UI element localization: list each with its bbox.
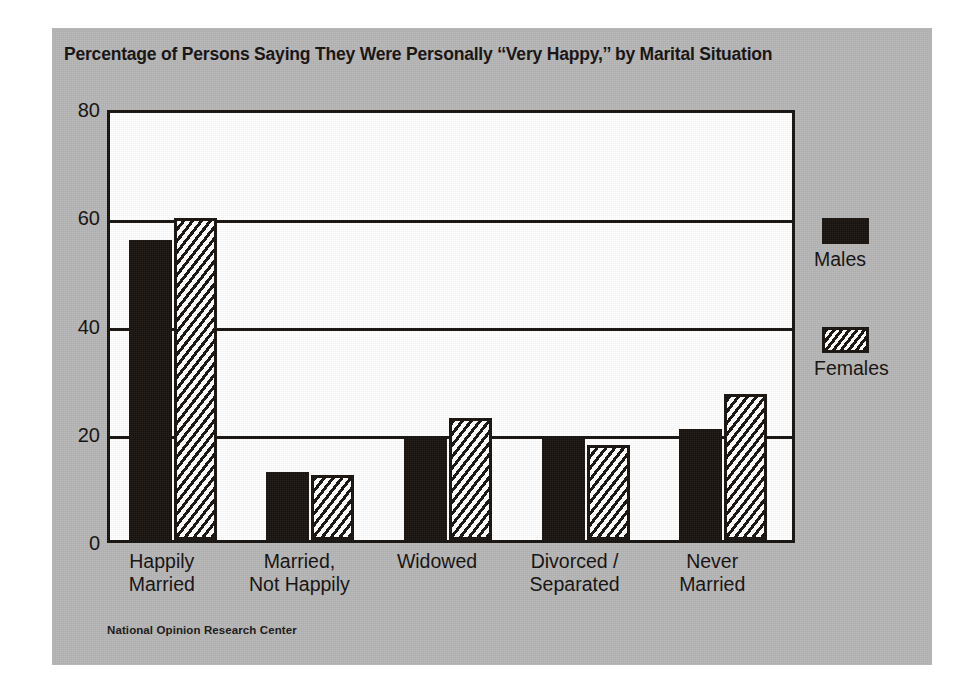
legend-label-males: Males — [814, 248, 924, 271]
bar-males-3 — [542, 437, 585, 540]
hatched-swatch — [822, 327, 869, 353]
source-note: National Opinion Research Center — [107, 624, 297, 636]
bar-females-0 — [174, 218, 217, 540]
y-tick-label-40: 40 — [54, 315, 100, 338]
bar-females-2 — [449, 418, 492, 540]
x-label-line: Divorced / — [506, 550, 644, 573]
bar-females-4 — [724, 394, 767, 540]
x-label-3: Divorced /Separated — [506, 550, 644, 596]
chart-legend: MalesFemales — [814, 218, 924, 436]
y-tick-label-20: 20 — [54, 423, 100, 446]
x-label-0: HappilyMarried — [93, 550, 231, 596]
x-label-line: Married — [643, 573, 781, 596]
bar-males-1 — [266, 472, 309, 540]
x-label-line: Happily — [93, 550, 231, 573]
chart-panel: Percentage of Persons Saying They Were P… — [52, 28, 932, 665]
bar-females-3 — [587, 445, 630, 540]
y-tick-label-80: 80 — [54, 99, 100, 122]
bar-males-0 — [129, 240, 172, 540]
solid-black-swatch — [822, 218, 869, 244]
bar-males-2 — [404, 437, 447, 540]
y-axis-tick-labels: 020406080 — [52, 110, 100, 543]
legend-entry-males: Males — [814, 218, 924, 271]
legend-entry-females: Females — [814, 327, 924, 380]
x-label-1: Married,Not Happily — [231, 550, 369, 596]
y-tick-label-60: 60 — [54, 207, 100, 230]
plot-area — [107, 110, 795, 543]
figure-page: Percentage of Persons Saying They Were P… — [0, 0, 970, 691]
bar-series-group — [110, 113, 792, 540]
x-label-line: Married, — [231, 550, 369, 573]
x-label-line: Separated — [506, 573, 644, 596]
x-label-4: NeverMarried — [643, 550, 781, 596]
legend-label-females: Females — [814, 357, 924, 380]
bar-females-1 — [311, 475, 354, 540]
x-label-line: Married — [93, 573, 231, 596]
chart-title: Percentage of Persons Saying They Were P… — [64, 44, 894, 65]
x-label-line: Never — [643, 550, 781, 573]
x-label-2: Widowed — [368, 550, 506, 573]
x-label-line: Not Happily — [231, 573, 369, 596]
bar-males-4 — [679, 429, 722, 540]
x-label-line: Widowed — [368, 550, 506, 573]
x-axis-category-labels: HappilyMarriedMarried,Not HappilyWidowed… — [107, 550, 795, 620]
